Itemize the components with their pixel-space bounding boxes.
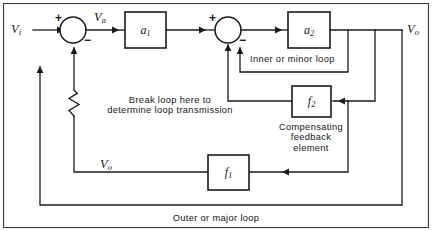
label-break-loop-line1: Break loop here to [107, 95, 233, 105]
wire-sum2-to-a2 [241, 27, 288, 34]
wire-a1-to-sum2 [166, 27, 215, 34]
block-a2-label: a2 [304, 24, 314, 39]
wire-sum1-to-a1 [86, 27, 125, 34]
label-feedback-tap-signal: Vo [100, 157, 112, 172]
label-break-loop-line2: determine loop transmission [107, 105, 233, 115]
label-error-signal: Va [94, 10, 106, 25]
label-break-loop: Break loop here to determine loop transm… [107, 95, 233, 116]
sum2-minus-sign: − [239, 34, 246, 47]
wire-output-to-f2 [333, 30, 375, 104]
block-f2-label: f2 [308, 95, 315, 110]
block-a1-label: a1 [141, 24, 151, 39]
label-output-signal: Vo [407, 22, 419, 37]
sum2-plus-sign: + [209, 12, 216, 25]
label-compensating-feedback-element: Compensating feedback element [279, 122, 343, 153]
label-compensating-line3: element [279, 143, 343, 153]
sum1-minus-sign: − [84, 34, 91, 47]
label-input-signal: Vi [11, 22, 21, 37]
sum1-plus-sign: + [55, 12, 62, 25]
label-compensating-line1: Compensating [279, 122, 343, 132]
label-inner-loop: Inner or minor loop [250, 54, 335, 64]
label-outer-loop: Outer or major loop [173, 213, 260, 223]
block-f1-label: f1 [225, 166, 232, 181]
label-compensating-line2: feedback [279, 132, 343, 142]
block-diagram-canvas: Vi + − Va a1 + − a2 Vo Inner or minor lo… [0, 0, 432, 231]
summing-junction-1 [60, 17, 86, 43]
summing-junction-2 [215, 17, 241, 43]
